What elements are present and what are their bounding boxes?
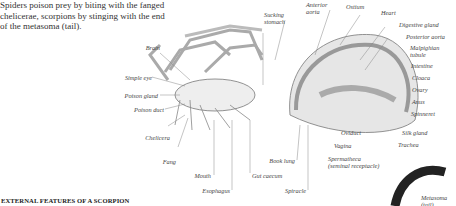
label-chelicera: Chelicera [120,134,170,141]
label-ostium: Ostium [346,3,364,10]
label-digestive-gland: Digestive gland [399,21,439,28]
label-heart: Heart [381,9,396,16]
label-cloaca: Cloaca [412,74,430,81]
label-poison-duct: Poison duct [104,106,164,113]
label-mouth: Mouth [175,172,211,179]
label-fang: Fang [140,158,176,165]
label-esophagus: Esophagus [185,187,230,194]
intro-caption: Spiders poison prey by biting with the f… [0,0,170,32]
label-simple-eye: Simple eye [100,74,152,81]
label-anus: Anus [412,98,425,105]
label-poison-gland: Poison gland [100,92,158,99]
label-spermatheca: Spermatheca (seminal receptacle) [328,155,379,169]
label-silk-gland: Silk gland [402,129,427,136]
label-vagina: Vagina [334,142,352,149]
label-ovary: Ovary [412,86,428,93]
label-book-lung: Book lung [245,157,295,164]
section-title: EXTERNAL FEATURES OF A SCORPION [1,197,129,204]
label-oviduct: Oviduct [341,129,361,136]
label-spiracle: Spiracle [260,187,306,194]
label-gut-caecum: Gut caecum [252,172,282,179]
label-posterior-aorta: Posterior aorta [406,33,445,40]
label-trachea: Trachea [398,141,419,148]
label-sucking-stomach: Sucking stomach [264,11,285,25]
label-anterior-aorta: Anterior aorta [306,1,327,15]
label-malpighian-tubule: Malpighian tubule [410,44,439,58]
label-intestine: Intestine [411,62,433,69]
label-metasoma: Metasoma (tail) [421,194,447,206]
label-spinneret: Spinneret [411,110,435,117]
label-brain: Brain [104,44,160,51]
